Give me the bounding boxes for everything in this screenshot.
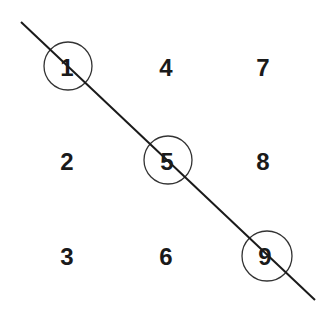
diagonal-grid-diagram: 1 4 7 2 5 8 3 6 9 [0, 0, 332, 314]
number-8: 8 [256, 148, 269, 175]
number-6: 6 [159, 243, 172, 270]
number-2: 2 [60, 148, 73, 175]
number-1: 1 [60, 54, 73, 81]
number-7: 7 [256, 54, 269, 81]
number-4: 4 [159, 54, 173, 81]
number-3: 3 [60, 243, 73, 270]
